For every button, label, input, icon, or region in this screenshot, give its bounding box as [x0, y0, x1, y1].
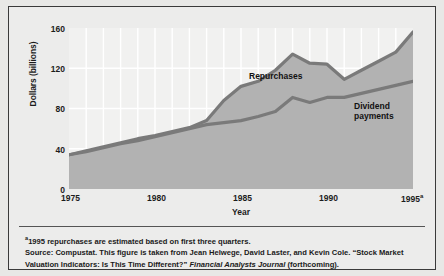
figure-container: Dollars (billions) 160 120 80 40 0 — [0, 0, 444, 276]
figure-frame: Dollars (billions) 160 120 80 40 0 — [8, 6, 436, 270]
x-tick-1990: 1990 — [319, 193, 338, 203]
dividend-label-line1: Dividend — [354, 101, 390, 111]
figure-notes: a1995 repurchases are estimated based on… — [25, 233, 429, 270]
note-line-1-text: 1995 repurchases are estimated based on … — [28, 237, 250, 246]
series-label-dividend: Dividend payments — [354, 101, 394, 121]
x-axis-title: Year — [69, 207, 413, 217]
note-line-3-pre: Valuation Indicators: Is This Time Diffe… — [25, 260, 189, 269]
note-line-1: a1995 repurchases are estimated based on… — [25, 233, 429, 247]
note-line-2: Source: Compustat. This figure is taken … — [25, 247, 429, 259]
series-label-repurchases: Repurchases — [249, 71, 302, 81]
note-line-3: Valuation Indicators: Is This Time Diffe… — [25, 259, 429, 271]
chart-area: Dollars (billions) 160 120 80 40 0 — [9, 7, 437, 222]
y-axis-ticks: 160 120 80 40 0 — [9, 7, 65, 222]
notes-divider — [19, 226, 425, 227]
note-journal-name: Financial Analysts Journal — [189, 260, 285, 269]
x-tick-1975: 1975 — [61, 193, 80, 203]
y-tick-40: 40 — [15, 145, 65, 155]
x-tick-1995: 1995a — [401, 193, 423, 204]
y-tick-0: 0 — [15, 185, 65, 195]
x-tick-1995-superscript: a — [420, 193, 423, 199]
x-tick-1985: 1985 — [233, 193, 252, 203]
note-line-3-post: (forthcoming). — [285, 260, 339, 269]
dividend-label-line2: payments — [354, 111, 394, 121]
y-tick-160: 160 — [15, 24, 65, 34]
y-tick-120: 120 — [15, 64, 65, 74]
x-tick-1995-value: 1995 — [401, 194, 420, 204]
x-tick-1980: 1980 — [147, 193, 166, 203]
y-tick-80: 80 — [15, 104, 65, 114]
